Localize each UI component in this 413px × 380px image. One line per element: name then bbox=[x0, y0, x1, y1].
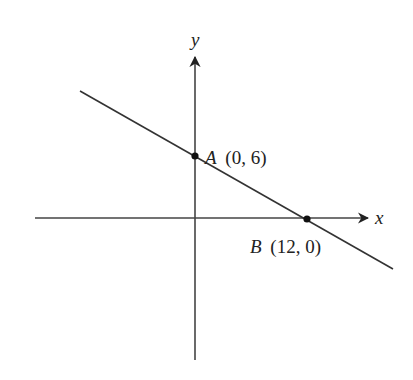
point-b-name: B bbox=[250, 236, 262, 257]
coordinate-plane: y x A (0, 6) B (12, 0) bbox=[0, 0, 413, 380]
y-axis-label: y bbox=[189, 29, 200, 50]
point-b-coords: (12, 0) bbox=[270, 236, 321, 258]
x-axis-label: x bbox=[374, 207, 384, 228]
point-a bbox=[191, 152, 198, 159]
line-ab bbox=[80, 91, 393, 269]
point-a-coords: (0, 6) bbox=[225, 147, 266, 169]
point-b bbox=[303, 215, 310, 222]
point-a-name: A bbox=[203, 147, 217, 168]
point-a-label: A (0, 6) bbox=[203, 147, 267, 169]
point-b-label: B (12, 0) bbox=[250, 236, 321, 258]
